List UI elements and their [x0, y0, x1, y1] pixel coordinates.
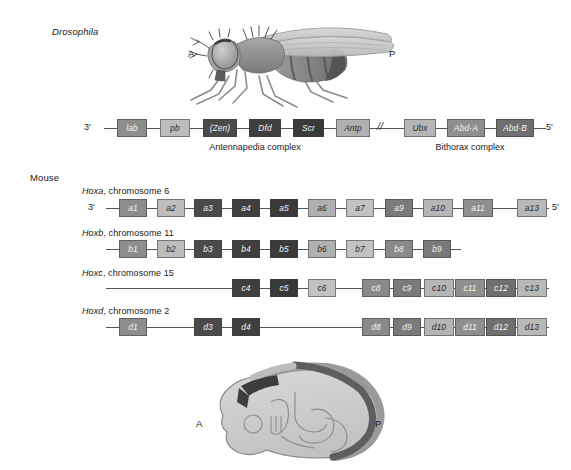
gene-label: Dfd [258, 124, 271, 132]
hoxb-gene-row: b1b2b3b4b5b6b7b8b9 [0, 240, 571, 258]
hoxa-3prime-label: 3′ [88, 202, 95, 212]
drosophila-hom-c-row: 3′ 5′ // labpb(Zen)DfdScrAntpUbxAbd-AAbd… [0, 119, 571, 137]
gene-label: d9 [402, 323, 412, 331]
gene-label: a13 [525, 204, 539, 212]
drosophila-gene-dfd[interactable]: Dfd [249, 119, 281, 137]
hoxc-gene-c10[interactable]: c10 [424, 279, 454, 297]
hoxd-gene-d3[interactable]: d3 [194, 318, 222, 336]
hoxb-gene-b2[interactable]: b2 [157, 240, 185, 258]
gene-label: c11 [463, 284, 476, 292]
hoxc-gene-c4[interactable]: c4 [232, 279, 260, 297]
hoxc-gene-c9[interactable]: c9 [393, 279, 421, 297]
gene-label: d8 [371, 323, 381, 331]
fly-posterior-label: P [389, 48, 395, 59]
hoxa-cluster-title: Hoxa, chromosome 6 [82, 186, 169, 196]
hoxd-name: Hoxd [82, 306, 103, 316]
gene-label: a9 [394, 204, 404, 212]
gene-label: a1 [128, 204, 138, 212]
gene-label: b6 [317, 245, 327, 253]
hoxd-gene-d1[interactable]: d1 [119, 318, 147, 336]
gene-label: b8 [394, 245, 404, 253]
drosophila-gene-antp[interactable]: Antp [336, 119, 370, 137]
gene-label: a2 [166, 204, 176, 212]
gene-label: d13 [525, 323, 539, 331]
hoxa-gene-a1[interactable]: a1 [119, 199, 147, 217]
hoxc-chromosome: , chromosome 15 [103, 268, 174, 278]
hoxb-gene-b8[interactable]: b8 [385, 240, 413, 258]
hoxa-gene-a6[interactable]: a6 [308, 199, 336, 217]
gene-label: b3 [203, 245, 213, 253]
drosophila-gene-zen[interactable]: (Zen) [203, 119, 237, 137]
hoxa-gene-a11[interactable]: a11 [463, 199, 493, 217]
hoxc-cluster-title: Hoxc, chromosome 15 [82, 268, 174, 278]
drosophila-3prime-label: 3′ [84, 122, 91, 132]
gene-label: c12 [494, 284, 508, 292]
hoxb-gene-b1[interactable]: b1 [119, 240, 147, 258]
hoxc-gene-c8[interactable]: c8 [362, 279, 390, 297]
hoxa-gene-a2[interactable]: a2 [157, 199, 185, 217]
hoxa-gene-a4[interactable]: a4 [232, 199, 260, 217]
hoxc-gene-c11[interactable]: c11 [455, 279, 485, 297]
gene-label: (Zen) [210, 124, 231, 132]
gene-label: lab [126, 124, 137, 132]
gene-label: Abd-A [454, 124, 478, 132]
hoxb-gene-b7[interactable]: b7 [346, 240, 374, 258]
gene-label: c13 [525, 284, 539, 292]
hoxb-name: Hoxb [82, 228, 103, 238]
hoxd-gene-d13[interactable]: d13 [517, 318, 547, 336]
drosophila-gene-abd-a[interactable]: Abd-A [447, 119, 485, 137]
hoxc-gene-c13[interactable]: c13 [517, 279, 547, 297]
gene-label: c8 [371, 284, 380, 292]
hoxb-gene-b4[interactable]: b4 [232, 240, 260, 258]
hoxb-gene-b9[interactable]: b9 [423, 240, 451, 258]
drosophila-gene-ubx[interactable]: Ubx [404, 119, 436, 137]
gene-label: b7 [355, 245, 365, 253]
gene-label: a6 [317, 204, 327, 212]
hoxa-gene-a10[interactable]: a10 [423, 199, 453, 217]
drosophila-gene-scr[interactable]: Scr [293, 119, 324, 137]
gene-label: b5 [279, 245, 289, 253]
hoxb-cluster-title: Hoxb, chromosome 11 [82, 228, 174, 238]
hoxa-name: Hoxa [82, 186, 103, 196]
hoxd-gene-d10[interactable]: d10 [424, 318, 454, 336]
gene-label: d11 [463, 323, 477, 331]
drosophila-illustration [163, 8, 413, 113]
embryo-posterior-label: P [375, 418, 381, 429]
gene-label: pb [170, 124, 180, 132]
hoxd-gene-d11[interactable]: d11 [455, 318, 485, 336]
hoxa-5prime-label: 5′ [552, 202, 559, 212]
hoxd-gene-d12[interactable]: d12 [486, 318, 516, 336]
gene-label: c6 [317, 284, 326, 292]
hoxd-gene-d4[interactable]: d4 [232, 318, 260, 336]
hoxb-chromosome: , chromosome 11 [103, 228, 173, 238]
gene-label: b2 [166, 245, 176, 253]
hoxc-gene-c12[interactable]: c12 [486, 279, 516, 297]
hoxa-gene-a13[interactable]: a13 [517, 199, 547, 217]
gene-label: a11 [471, 204, 485, 212]
hoxb-gene-b3[interactable]: b3 [194, 240, 222, 258]
gene-label: c4 [241, 284, 250, 292]
gene-label: d12 [494, 323, 508, 331]
drosophila-5prime-label: 5′ [546, 122, 553, 132]
hoxb-gene-b5[interactable]: b5 [270, 240, 298, 258]
gene-label: d4 [241, 323, 251, 331]
hoxa-gene-a5[interactable]: a5 [270, 199, 298, 217]
hoxb-gene-b6[interactable]: b6 [308, 240, 336, 258]
hoxc-name: Hoxc [82, 268, 103, 278]
drosophila-gene-pb[interactable]: pb [160, 119, 190, 137]
hoxd-gene-d8[interactable]: d8 [362, 318, 390, 336]
hoxc-gene-c5[interactable]: c5 [270, 279, 298, 297]
gene-label: a5 [279, 204, 289, 212]
bithorax-complex-caption: Bithorax complex [392, 142, 548, 152]
gene-label: Ubx [412, 124, 427, 132]
hoxa-gene-a9[interactable]: a9 [385, 199, 413, 217]
mouse-species-label: Mouse [30, 172, 59, 183]
hoxa-gene-a7[interactable]: a7 [346, 199, 374, 217]
drosophila-gene-lab[interactable]: lab [117, 119, 147, 137]
hoxc-gene-c6[interactable]: c6 [308, 279, 336, 297]
drosophila-gene-abd-b[interactable]: Abd-B [496, 119, 534, 137]
gene-label: a4 [241, 204, 251, 212]
hoxa-gene-a3[interactable]: a3 [194, 199, 222, 217]
antennapedia-complex-caption: Antennapedia complex [140, 142, 370, 152]
hoxd-gene-d9[interactable]: d9 [393, 318, 421, 336]
